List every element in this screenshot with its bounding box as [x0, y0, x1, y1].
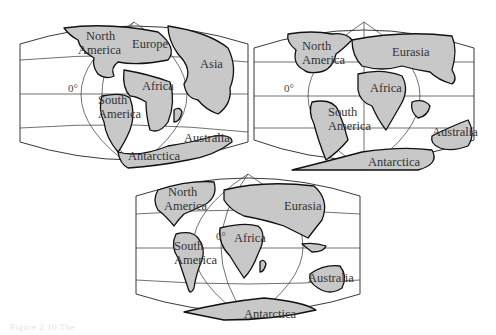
label-north-america-line1: North	[302, 39, 332, 53]
label-africa: Africa	[370, 81, 402, 95]
figure-caption: Figure 2.10 The	[10, 322, 75, 332]
label-africa: Africa	[142, 79, 174, 93]
label-equator-0deg: 0°	[216, 230, 226, 242]
label-south-america-line1: South	[98, 93, 128, 107]
map-2-graphic: North America Eurasia Africa South Ameri…	[252, 20, 484, 172]
map-breakup-continents: North America Eurasia Africa South Ameri…	[252, 20, 484, 172]
label-africa: Africa	[234, 231, 266, 245]
label-equator-0deg: 0°	[284, 82, 294, 94]
label-south-america-line2: America	[328, 119, 371, 133]
label-south-america-line2: America	[174, 253, 217, 267]
label-antarctica: Antarctica	[244, 307, 297, 321]
map-present-day: North America Eurasia Africa South Ameri…	[134, 170, 362, 322]
label-eurasia: Eurasia	[284, 199, 322, 213]
label-north-america-line2: America	[164, 199, 207, 213]
label-north-america-line2: America	[302, 53, 345, 67]
label-north-america-line1: North	[86, 29, 116, 43]
label-south-america-line2: America	[98, 107, 141, 121]
label-australia: Australia	[184, 131, 230, 145]
label-eurasia: Eurasia	[392, 45, 430, 59]
map-early-supercontinent: North America Europe Asia Africa South A…	[18, 18, 250, 170]
label-europe: Europe	[132, 37, 169, 51]
label-north-america-line1: North	[168, 185, 198, 199]
label-australia: Australia	[432, 125, 478, 139]
label-antarctica: Antarctica	[368, 155, 421, 169]
label-equator-0deg: 0°	[68, 82, 78, 94]
label-asia: Asia	[200, 57, 223, 71]
label-south-america-line1: South	[174, 239, 204, 253]
label-south-america-line1: South	[328, 105, 358, 119]
label-north-america-line2: America	[78, 43, 121, 57]
map-3-graphic: North America Eurasia Africa South Ameri…	[134, 170, 362, 322]
map-1-graphic: North America Europe Asia Africa South A…	[18, 18, 250, 170]
label-antarctica: Antarctica	[128, 149, 181, 163]
label-australia: Australia	[308, 271, 354, 285]
